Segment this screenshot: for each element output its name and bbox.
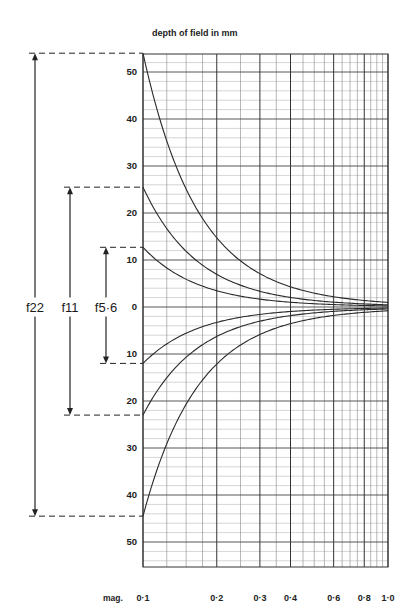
x-tick-label: 0·1: [136, 593, 149, 603]
x-tick-label: 1·0: [381, 593, 394, 603]
curves: [143, 53, 388, 516]
arrow-up-icon: [32, 53, 38, 60]
y-tick-label: 50: [113, 66, 137, 77]
y-tick-label: 10: [113, 348, 137, 359]
aperture-label: f11: [61, 298, 78, 317]
y-tick-label: 10: [113, 254, 137, 265]
y-tick-label: 40: [113, 489, 137, 500]
y-tick-label: 20: [113, 207, 137, 218]
x-tick-label: 0·2: [210, 593, 223, 603]
arrow-down-icon: [103, 356, 109, 363]
aperture-label: f5·6: [95, 298, 117, 317]
y-tick-label: 30: [113, 442, 137, 453]
x-tick-label: 0·3: [253, 593, 266, 603]
arrow-down-icon: [67, 408, 73, 415]
y-tick-label: 50: [113, 536, 137, 547]
y-tick-label: 40: [113, 113, 137, 124]
x-axis-title: mag.: [103, 593, 123, 603]
x-tick-label: 0·8: [358, 593, 371, 603]
curve-f22-near: [143, 311, 388, 516]
curve-f11-near: [143, 309, 388, 415]
x-tick-label: 0·6: [327, 593, 340, 603]
aperture-arrows: [32, 53, 109, 516]
y-tick-label: 20: [113, 395, 137, 406]
aperture-label: f22: [26, 298, 44, 317]
arrow-up-icon: [67, 187, 73, 194]
chart-title: depth of field in mm: [152, 28, 238, 38]
y-tick-label: 30: [113, 160, 137, 171]
arrow-down-icon: [32, 509, 38, 516]
x-tick-label: 0·4: [284, 593, 297, 603]
arrow-up-icon: [103, 247, 109, 254]
curve-f11-far: [143, 187, 388, 305]
